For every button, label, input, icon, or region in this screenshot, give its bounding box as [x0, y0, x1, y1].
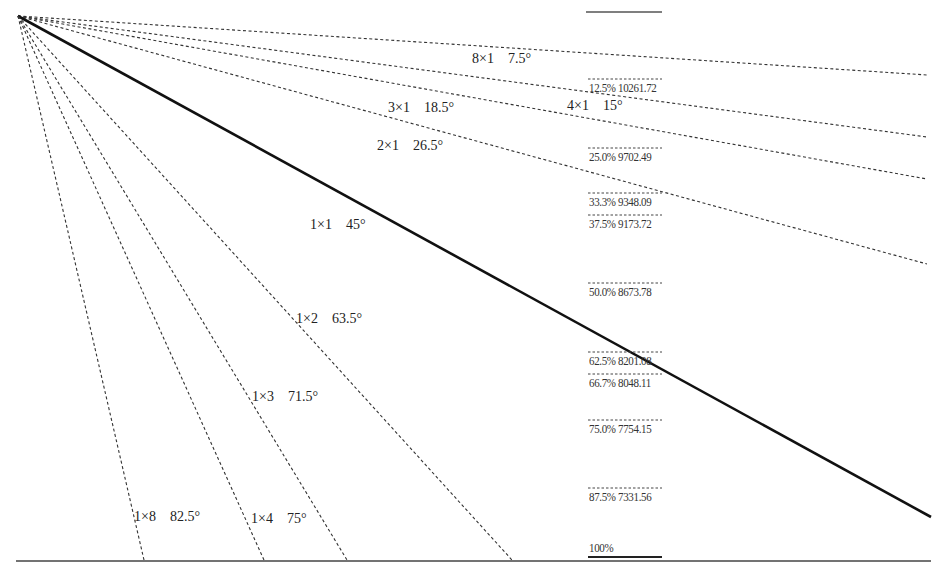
gann-ratio: 1×4 — [251, 511, 273, 526]
gann-angle: 63.5° — [332, 311, 362, 326]
fib-percent: 50.0% — [589, 285, 616, 299]
gann-fan-lines — [18, 16, 931, 560]
gann-label: 1×263.5° — [296, 312, 362, 326]
gann-label: 8×17.5° — [472, 52, 531, 66]
fib-level-label: 50.0% 8673.78 — [589, 286, 651, 299]
gann-ratio: 8×1 — [472, 51, 494, 66]
fib-price: 9173.72 — [618, 217, 651, 231]
gann-ratio: 3×1 — [388, 100, 410, 115]
gann-label: 1×145° — [310, 218, 366, 232]
gann-ratio: 1×8 — [134, 509, 156, 524]
fib-price: 9702.49 — [618, 150, 651, 164]
fib-price: 8201.08 — [618, 354, 651, 368]
fib-percent: 62.5% — [589, 354, 616, 368]
gann-line-1x1 — [18, 16, 931, 517]
gann-label: 1×882.5° — [134, 510, 200, 524]
fib-level-label: 87.5% 7331.56 — [589, 491, 651, 504]
gann-label: 2×126.5° — [377, 139, 443, 153]
gann-label: 1×371.5° — [252, 390, 318, 404]
gann-ratio: 1×1 — [310, 217, 332, 232]
fib-percent: 12.5% — [589, 81, 616, 95]
gann-line-3x1 — [18, 16, 927, 179]
fib-percent: 66.7% — [589, 376, 616, 390]
fib-price: 7331.56 — [618, 490, 651, 504]
gann-line-1x3 — [18, 16, 347, 560]
fib-level-label: 62.5% 8201.08 — [589, 355, 651, 368]
fib-price: 8673.78 — [618, 285, 651, 299]
fib-percent: 75.0% — [589, 422, 616, 436]
gann-line-1x8 — [18, 16, 144, 560]
gann-angle: 82.5° — [170, 509, 200, 524]
gann-line-1x2 — [18, 16, 512, 560]
fib-level-label: 75.0% 7754.15 — [589, 423, 651, 436]
fib-percent: 33.3% — [589, 195, 616, 209]
gann-line-4x1 — [18, 16, 927, 137]
gann-angle: 26.5° — [413, 138, 443, 153]
fib-percent: 25.0% — [589, 150, 616, 164]
gann-ratio: 1×2 — [296, 311, 318, 326]
fib-price: 9348.09 — [618, 195, 651, 209]
gann-angle: 75° — [287, 511, 307, 526]
gann-label: 4×115° — [567, 99, 623, 113]
fib-level-label: 37.5% 9173.72 — [589, 218, 651, 231]
fib-price: 8048.11 — [618, 376, 651, 390]
gann-fan-chart — [0, 0, 945, 578]
gann-angle: 71.5° — [288, 389, 318, 404]
gann-line-1x4 — [18, 16, 264, 560]
fib-level-label: 25.0% 9702.49 — [589, 151, 651, 164]
fib-price: 7754.15 — [618, 422, 651, 436]
gann-angle: 45° — [346, 217, 366, 232]
fib-percent: 100% — [589, 541, 613, 555]
gann-ratio: 2×1 — [377, 138, 399, 153]
gann-label: 3×118.5° — [388, 101, 454, 115]
gann-angle: 18.5° — [424, 100, 454, 115]
gann-line-8x1 — [18, 16, 927, 75]
fib-price: 10261.72 — [618, 81, 656, 95]
fib-percent: 37.5% — [589, 217, 616, 231]
gann-ratio: 1×3 — [252, 389, 274, 404]
fib-percent: 87.5% — [589, 490, 616, 504]
fib-level-label: 33.3% 9348.09 — [589, 196, 651, 209]
gann-ratio: 4×1 — [567, 98, 589, 113]
fib-level-label: 100% — [589, 542, 613, 555]
fib-level-label: 66.7% 8048.11 — [589, 377, 651, 390]
gann-angle: 15° — [603, 98, 623, 113]
fib-level-label: 12.5% 10261.72 — [589, 82, 657, 95]
gann-angle: 7.5° — [508, 51, 531, 66]
gann-label: 1×475° — [251, 512, 307, 526]
